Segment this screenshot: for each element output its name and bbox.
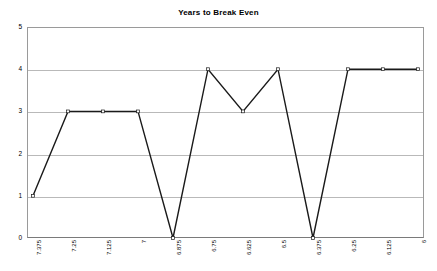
x-axis: 7.3757.257.12576.8756.756.6256.56.3756.2…: [27, 240, 424, 271]
x-tick-label: 6.375: [316, 240, 322, 255]
chart-container: Years to Break Even 012345 7.3757.257.12…: [0, 0, 437, 271]
x-tick-label: 7.125: [106, 240, 112, 255]
line-series: [27, 27, 424, 238]
data-point-marker: [137, 110, 140, 113]
data-point-marker: [382, 68, 385, 71]
x-tick-label: 7.375: [36, 240, 42, 255]
data-point-marker: [207, 68, 210, 71]
x-tick-label: 6: [421, 240, 427, 243]
x-tick-label: 7: [141, 240, 147, 243]
data-point-marker: [242, 110, 245, 113]
data-point-marker: [347, 68, 350, 71]
data-point-marker: [312, 237, 315, 240]
x-tick-label: 6.5: [281, 240, 287, 248]
y-tick-label: 2: [18, 150, 22, 157]
x-tick-label: 6.125: [386, 240, 392, 255]
y-tick-label: 3: [18, 108, 22, 115]
x-tick-label: 6.875: [176, 240, 182, 255]
x-tick-label: 6.25: [351, 240, 357, 252]
x-tick-label: 6.625: [246, 240, 252, 255]
y-tick-label: 4: [18, 66, 22, 73]
y-tick-label: 1: [18, 193, 22, 200]
data-point-marker: [67, 110, 70, 113]
chart-title: Years to Break Even: [0, 8, 437, 17]
y-tick-label: 0: [18, 235, 22, 242]
y-axis: 012345: [0, 0, 27, 265]
data-point-marker: [102, 110, 105, 113]
y-tick-label: 5: [18, 24, 22, 31]
data-point-marker: [417, 68, 420, 71]
x-tick-label: 6.75: [211, 240, 217, 252]
x-tick-label: 7.25: [71, 240, 77, 252]
data-point-marker: [172, 237, 175, 240]
data-point-marker: [32, 194, 35, 197]
series-line: [33, 69, 418, 238]
data-point-marker: [277, 68, 280, 71]
